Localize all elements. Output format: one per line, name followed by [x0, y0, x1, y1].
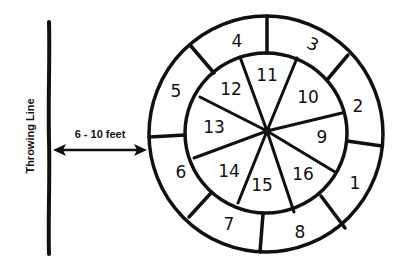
target-diagram: Throwing Line 6 - 10 feet — [0, 0, 403, 269]
outer-section-4: 4 — [232, 31, 243, 51]
inner-section-11: 11 — [256, 65, 278, 85]
distance-arrow — [53, 144, 147, 156]
target: 1 2 3 4 5 6 7 8 9 10 11 12 13 14 15 16 — [149, 16, 383, 252]
outer-section-5: 5 — [171, 81, 182, 101]
inner-section-12: 12 — [220, 79, 242, 99]
inner-section-14: 14 — [218, 161, 240, 181]
inner-section-13: 13 — [203, 117, 225, 137]
outer-section-2: 2 — [353, 96, 364, 116]
throwing-line-label: Throwing Line — [24, 98, 36, 173]
inner-section-10: 10 — [297, 87, 319, 107]
inner-section-16: 16 — [292, 164, 314, 184]
outer-section-6: 6 — [176, 162, 187, 182]
distance-label: 6 - 10 feet — [75, 128, 126, 140]
throwing-line — [49, 22, 50, 254]
outer-section-7: 7 — [224, 214, 235, 234]
inner-section-15: 15 — [251, 175, 273, 195]
outer-section-8: 8 — [295, 222, 306, 242]
inner-section-9: 9 — [317, 127, 328, 147]
outer-section-1: 1 — [350, 173, 361, 193]
center-hub — [263, 127, 271, 135]
